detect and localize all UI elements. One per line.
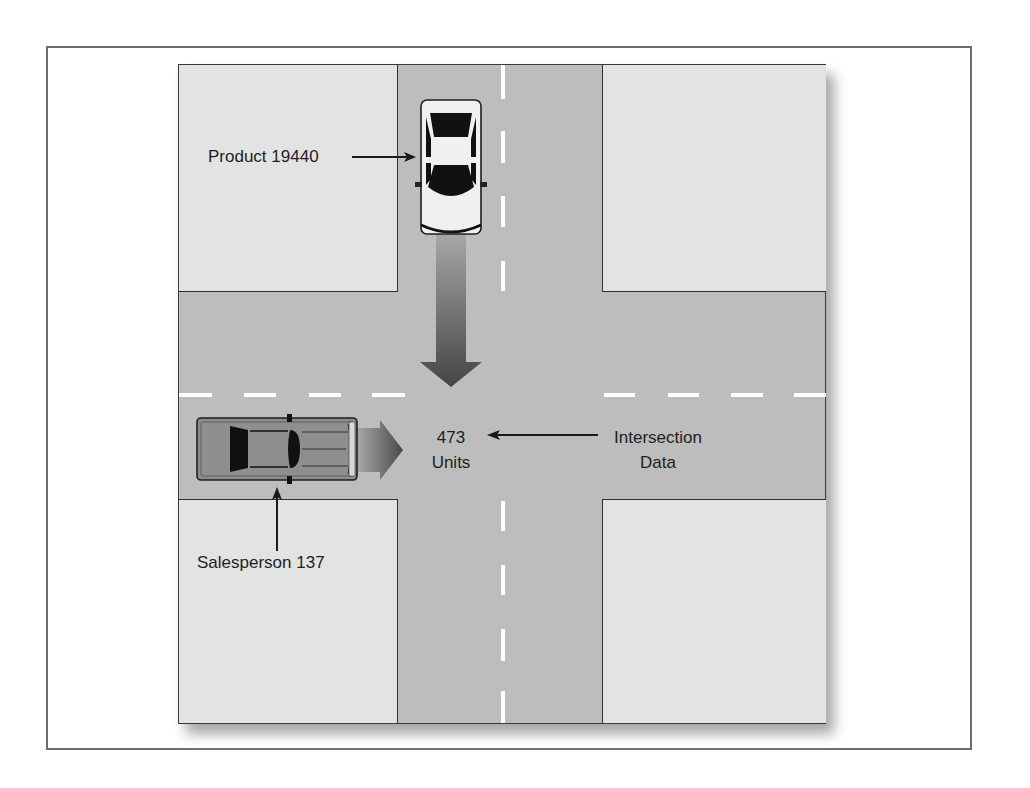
intersection-pointer-arrow-icon (487, 429, 599, 441)
block-bottom-right (602, 499, 826, 723)
lane-dash (244, 393, 276, 397)
salesperson-car-icon (196, 414, 360, 484)
product-label: Product 19440 (208, 147, 319, 167)
lane-dash (309, 393, 341, 397)
lane-dash (668, 393, 699, 397)
lane-dash (501, 196, 505, 227)
intersection-unit: Units (421, 453, 481, 473)
lane-dash (501, 501, 505, 531)
intersection-caption-line1: Intersection (598, 428, 718, 448)
block-top-right (602, 65, 826, 292)
salesperson-pointer-arrow-icon (271, 487, 283, 551)
block-top-left (179, 65, 398, 292)
lane-dash (372, 393, 405, 397)
block-bottom-left (179, 499, 398, 723)
product-car-icon (414, 99, 488, 237)
lane-dash (501, 629, 505, 661)
intersection-value: 473 (421, 428, 481, 448)
lane-dash (179, 393, 212, 397)
lane-dash (731, 393, 763, 397)
down-arrow-icon (418, 232, 484, 388)
lane-dash (501, 691, 505, 723)
lane-dash (501, 131, 505, 163)
right-arrow-icon (357, 418, 405, 482)
product-pointer-arrow-icon (352, 151, 418, 163)
salesperson-label: Salesperson 137 (197, 553, 325, 573)
lane-dash (604, 393, 635, 397)
lane-dash (501, 565, 505, 595)
lane-dash (501, 65, 505, 99)
lane-dash (794, 393, 826, 397)
intersection-caption-line2: Data (598, 453, 718, 473)
lane-dash (501, 261, 505, 291)
